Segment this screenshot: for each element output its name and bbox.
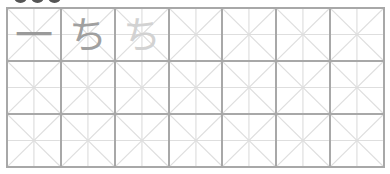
practice-cell: 一 xyxy=(8,9,62,62)
practice-cell xyxy=(277,9,331,62)
practice-character: ち xyxy=(62,9,114,60)
practice-cell xyxy=(331,9,385,62)
cross-guide-icon xyxy=(277,62,329,113)
practice-cell xyxy=(8,62,62,115)
cross-guide-icon xyxy=(223,9,275,60)
practice-cell xyxy=(170,9,224,62)
cross-guide-icon xyxy=(331,62,383,113)
practice-cell xyxy=(277,115,331,168)
header-mark xyxy=(31,0,44,3)
practice-cell xyxy=(223,62,277,115)
header-mark xyxy=(14,0,27,3)
practice-cell xyxy=(62,115,116,168)
cross-guide-icon xyxy=(277,115,329,166)
practice-cell xyxy=(331,62,385,115)
practice-cell xyxy=(116,62,170,115)
cross-guide-icon xyxy=(170,115,222,166)
cross-guide-icon xyxy=(223,115,275,166)
cross-guide-icon xyxy=(8,62,60,113)
cross-guide-icon xyxy=(62,62,114,113)
practice-character: 一 xyxy=(8,9,60,60)
cross-guide-icon xyxy=(116,115,168,166)
practice-cell xyxy=(170,62,224,115)
header-mark xyxy=(48,0,61,3)
practice-cell xyxy=(223,115,277,168)
practice-cell xyxy=(62,62,116,115)
cross-guide-icon xyxy=(8,115,60,166)
cross-guide-icon xyxy=(170,9,222,60)
cross-guide-icon xyxy=(277,9,329,60)
practice-cell xyxy=(331,115,385,168)
cross-guide-icon xyxy=(331,115,383,166)
practice-character: ち xyxy=(116,9,168,60)
practice-cell xyxy=(170,115,224,168)
cross-guide-icon xyxy=(331,9,383,60)
cut-off-header-text xyxy=(14,0,61,3)
writing-practice-grid: 一ちち xyxy=(6,7,385,168)
practice-cell xyxy=(116,115,170,168)
cross-guide-icon xyxy=(223,62,275,113)
cross-guide-icon xyxy=(62,115,114,166)
practice-cell xyxy=(223,9,277,62)
practice-cell xyxy=(277,62,331,115)
cross-guide-icon xyxy=(170,62,222,113)
practice-cell: ち xyxy=(62,9,116,62)
practice-cell xyxy=(8,115,62,168)
practice-cell: ち xyxy=(116,9,170,62)
cross-guide-icon xyxy=(116,62,168,113)
